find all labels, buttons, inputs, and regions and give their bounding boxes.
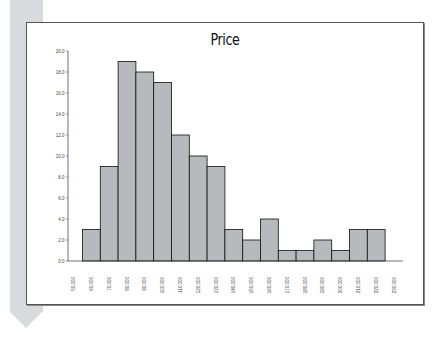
histogram-bar: [278, 251, 296, 262]
x-tick-label: 180,000: [303, 277, 308, 294]
x-tick-label: 100,000: [160, 277, 165, 294]
histogram-bar: [243, 240, 261, 261]
x-tick-label: 80,000: [125, 277, 130, 291]
y-tick-label: 20.0: [56, 49, 65, 54]
y-tick-label: 16.0: [56, 91, 65, 96]
histogram-bar: [172, 135, 190, 261]
histogram-bar: [314, 240, 332, 261]
y-tick-label: 18.0: [56, 70, 65, 75]
x-tick-label: 190,000: [320, 277, 325, 294]
x-tick-label: 50,000: [71, 277, 76, 291]
x-tick-label: 120,000: [196, 277, 201, 294]
x-tick-label: 110,000: [178, 277, 183, 293]
x-tick-label: 210,000: [356, 277, 361, 294]
histogram-bar: [83, 230, 101, 262]
y-tick-label: 10.0: [56, 154, 65, 159]
histogram-bar: [118, 62, 136, 262]
histogram-bar: [367, 230, 385, 262]
histogram-bar: [207, 167, 225, 262]
y-tick-label: 8.0: [58, 175, 65, 180]
x-tick-label: 150,000: [249, 277, 254, 294]
decorative-stripe-arrow: [10, 312, 42, 328]
x-tick-label: 170,000: [285, 277, 290, 294]
histogram-bar: [296, 251, 314, 262]
x-tick-label: 200,000: [338, 277, 343, 294]
histogram-plot: 0.02.04.06.08.010.012.014.016.018.020.05…: [27, 23, 423, 304]
x-tick-label: 130,000: [214, 277, 219, 294]
histogram-bar: [100, 167, 118, 262]
x-tick-label: 70,000: [107, 277, 112, 291]
y-tick-label: 14.0: [56, 112, 65, 117]
y-tick-label: 0.0: [58, 259, 65, 264]
x-tick-label: 90,000: [142, 277, 147, 291]
histogram-bar: [261, 219, 279, 261]
histogram-bar: [189, 156, 207, 261]
y-tick-label: 6.0: [58, 196, 65, 201]
x-tick-label: 230,000: [392, 277, 397, 294]
x-tick-label: 60,000: [89, 277, 94, 291]
histogram-bar: [350, 230, 368, 262]
histogram-bar: [332, 251, 350, 262]
histogram-bar: [154, 83, 172, 262]
y-tick-label: 2.0: [58, 238, 65, 243]
x-tick-label: 220,000: [374, 277, 379, 294]
y-tick-label: 12.0: [56, 133, 65, 138]
histogram-bar: [136, 72, 154, 261]
y-tick-label: 4.0: [58, 217, 65, 222]
x-tick-label: 160,000: [267, 277, 272, 294]
chart-frame: Price 0.02.04.06.08.010.012.014.016.018.…: [26, 22, 424, 305]
x-tick-label: 140,000: [231, 277, 236, 294]
histogram-bar: [225, 230, 243, 262]
